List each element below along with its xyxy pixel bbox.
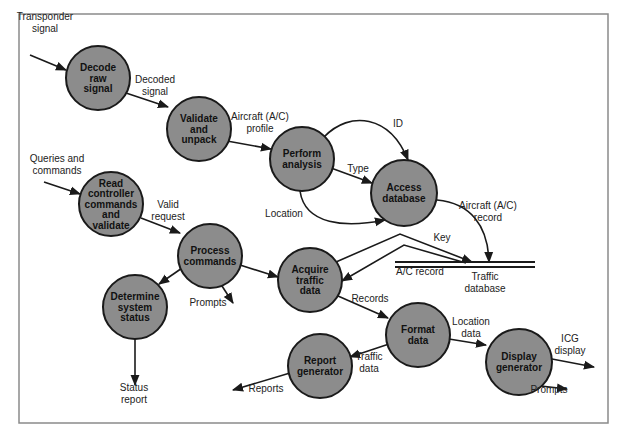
- flow-label-aircraft-profile: Aircraft (A/C)profile: [231, 111, 289, 134]
- flow-label-key: Key: [433, 232, 450, 243]
- flow-pc-to-acquire: [240, 265, 278, 277]
- process-acquire: Acquiretrafficdata: [278, 248, 342, 312]
- process-process: Processcommands: [178, 224, 242, 288]
- flow-label-queries-commands: Queries andcommands: [30, 153, 84, 176]
- flow-label-type: Type: [347, 163, 369, 174]
- flow-label-prompts-2: Prompts: [530, 384, 567, 395]
- process-read: Readcontrollercommandsandvalidate: [79, 172, 143, 236]
- flow-label-traffic-data: Trafficdata: [355, 351, 382, 374]
- process-format: Formatdata: [386, 303, 450, 367]
- process-label: Displaygenerator: [496, 351, 542, 373]
- flow-label-status-report: Statusreport: [120, 382, 148, 405]
- flow-key: [336, 234, 472, 262]
- process-status: Determinesystemstatus: [103, 275, 167, 339]
- flow-label-id: ID: [393, 118, 403, 129]
- flow-queries-commands: [44, 182, 80, 194]
- flow-label-valid-request: Validrequest: [151, 199, 185, 222]
- flow-aircraft-profile: [227, 141, 271, 149]
- flow-location-data: [449, 339, 486, 345]
- flow-label-reports: Reports: [248, 383, 283, 394]
- data-flow-diagram: Trafficdatabase DecoderawsignalValidatea…: [0, 0, 624, 437]
- process-report: Reportgenerator: [288, 334, 352, 398]
- flow-label-ac-record: A/C record: [396, 266, 444, 277]
- process-analysis: Performanalysis: [270, 127, 334, 191]
- store-label: Trafficdatabase: [464, 271, 506, 294]
- flow-label-records: Records: [351, 293, 388, 304]
- process-validate: Validateandunpack: [167, 97, 231, 161]
- process-access: Accessdatabase: [371, 160, 437, 226]
- flow-label-transponder-signal: Transpondersignal: [17, 11, 74, 34]
- process-label: Processcommands: [184, 245, 237, 267]
- process-decode: Decoderawsignal: [66, 46, 130, 110]
- flow-label-location-data: Locationdata: [452, 316, 490, 339]
- flow-label-prompts-1: Prompts: [189, 297, 226, 308]
- flow-label-location: Location: [265, 208, 303, 219]
- process-label: Performanalysis: [282, 148, 322, 170]
- flow-label-icg-display: ICGdisplay: [554, 333, 585, 356]
- flow-transponder-signal: [30, 55, 66, 70]
- flow-icg-display: [552, 359, 594, 367]
- flow-label-decoded-signal: Decodedsignal: [135, 74, 175, 97]
- process-label: Accessdatabase: [382, 182, 426, 204]
